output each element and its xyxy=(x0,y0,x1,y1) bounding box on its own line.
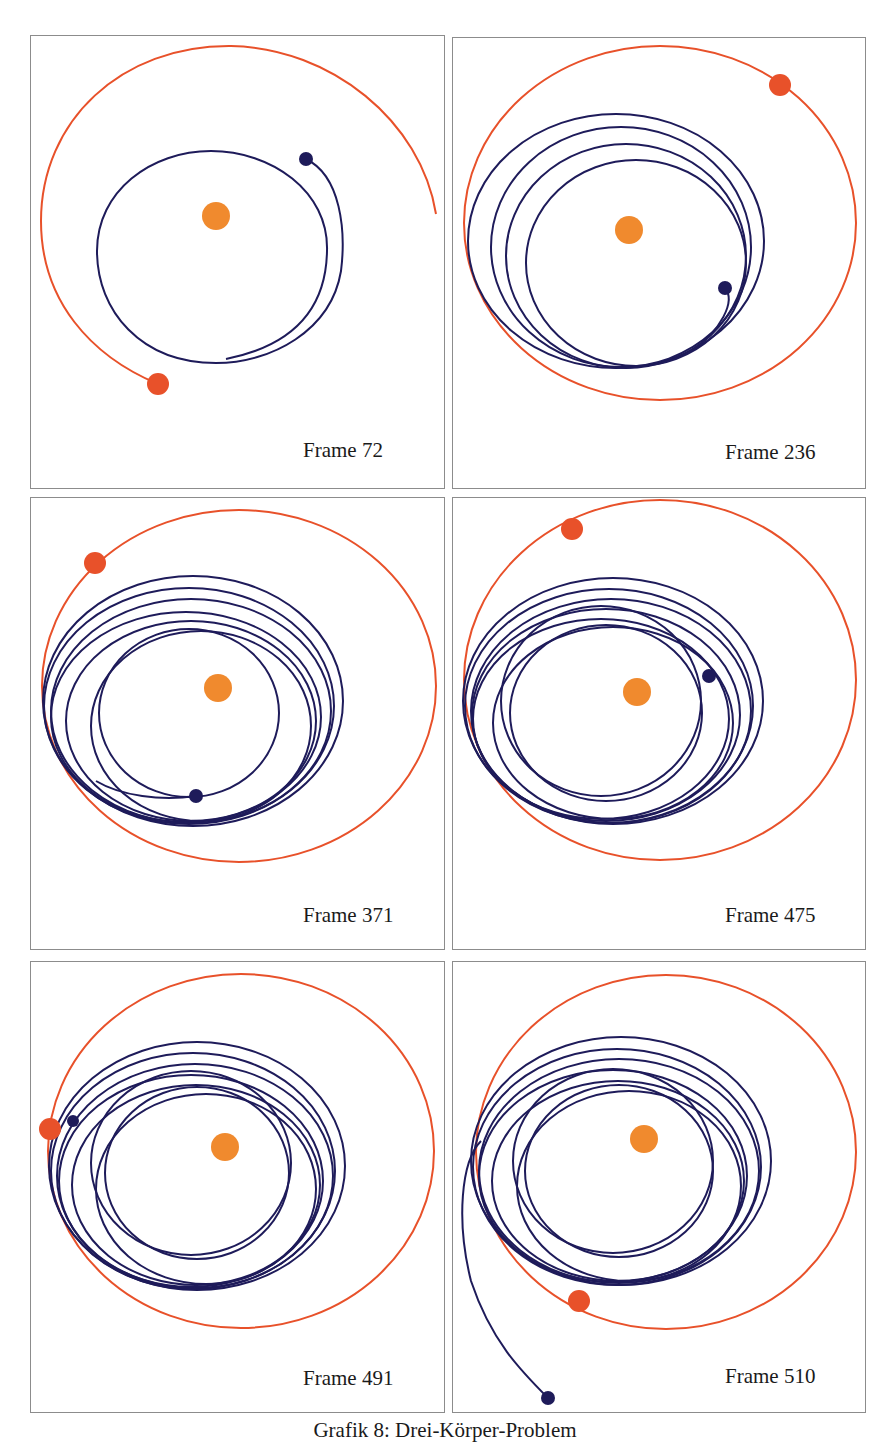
frame-panel-491: Frame 491 xyxy=(30,961,445,1413)
body-trail-path xyxy=(463,578,763,824)
sun-icon xyxy=(211,1133,239,1161)
figure-caption: Grafik 8: Drei-Körper-Problem xyxy=(0,1418,890,1443)
body-icon xyxy=(541,1391,555,1405)
planet-icon xyxy=(561,518,583,540)
frame-panel-236: Frame 236 xyxy=(452,37,866,489)
sun-icon xyxy=(204,674,232,702)
orbit-diagram xyxy=(453,38,867,490)
planet-icon xyxy=(568,1290,590,1312)
frame-label: Frame 491 xyxy=(303,1366,393,1391)
body-icon xyxy=(718,281,732,295)
planet-icon xyxy=(147,373,169,395)
sun-icon xyxy=(615,216,643,244)
planet-icon xyxy=(84,552,106,574)
sun-icon xyxy=(202,202,230,230)
frame-label: Frame 510 xyxy=(725,1364,815,1389)
orbit-diagram xyxy=(31,962,446,1414)
body-trail-path xyxy=(49,1042,345,1290)
orbit-diagram xyxy=(31,498,446,951)
body-trail-path xyxy=(43,576,343,826)
body-icon xyxy=(702,669,716,683)
orbit-diagram xyxy=(31,36,446,490)
frame-panel-72: Frame 72 xyxy=(30,35,445,489)
frame-label: Frame 236 xyxy=(725,440,815,465)
body-icon xyxy=(189,789,203,803)
frame-label: Frame 371 xyxy=(303,903,393,928)
planet-icon xyxy=(769,74,791,96)
frame-panel-510: Frame 510 xyxy=(452,961,866,1413)
body-icon xyxy=(67,1115,79,1127)
planet-icon xyxy=(39,1118,61,1140)
planet-orbit-path xyxy=(464,500,856,860)
frame-label: Frame 72 xyxy=(303,438,383,463)
orbit-diagram xyxy=(453,498,867,951)
body-trail-path xyxy=(97,151,343,363)
body-trail-path xyxy=(468,114,764,368)
orbit-diagram xyxy=(453,962,867,1414)
sun-icon xyxy=(623,678,651,706)
body-trail-path xyxy=(462,1037,771,1398)
frame-panel-371: Frame 371 xyxy=(30,497,445,950)
planet-orbit-path xyxy=(41,46,436,384)
body-icon xyxy=(299,152,313,166)
frame-panel-475: Frame 475 xyxy=(452,497,866,950)
planet-orbit-path xyxy=(464,46,856,400)
frame-label: Frame 475 xyxy=(725,903,815,928)
sun-icon xyxy=(630,1125,658,1153)
